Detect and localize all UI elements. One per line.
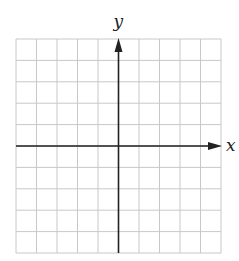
x-axis-label: x xyxy=(226,135,236,155)
axes xyxy=(16,38,222,253)
y-axis-arrow-icon xyxy=(115,38,123,52)
x-axis-arrow-icon xyxy=(208,142,222,150)
y-axis-label: y xyxy=(113,11,124,31)
coordinate-plane: x y xyxy=(0,0,239,261)
